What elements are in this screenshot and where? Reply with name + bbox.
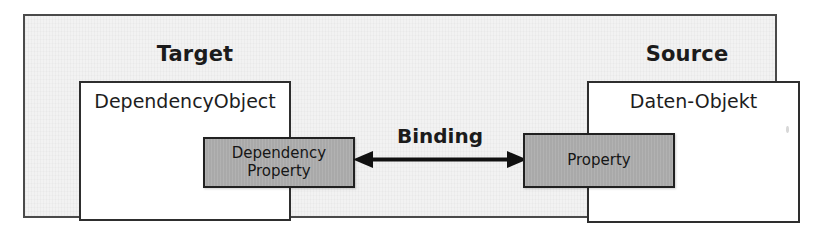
dependency-property-box: Dependency Property — [203, 137, 355, 188]
scan-artifact-speck — [786, 126, 789, 133]
dependency-property-label: Dependency Property — [232, 145, 326, 180]
binding-double-arrow-icon — [351, 146, 529, 174]
binding-diagram: Target DependencyObject Dependency Prope… — [0, 0, 824, 237]
daten-objekt-label: Daten-Objekt — [589, 91, 798, 112]
dependency-object-label: DependencyObject — [81, 91, 289, 112]
diagram-outer-frame: Target DependencyObject Dependency Prope… — [23, 14, 777, 218]
source-section-title: Source — [617, 44, 757, 65]
source-property-label: Property — [567, 152, 630, 170]
target-section-title: Target — [125, 44, 265, 65]
source-property-box: Property — [523, 133, 675, 188]
binding-connector-label: Binding — [370, 126, 510, 146]
